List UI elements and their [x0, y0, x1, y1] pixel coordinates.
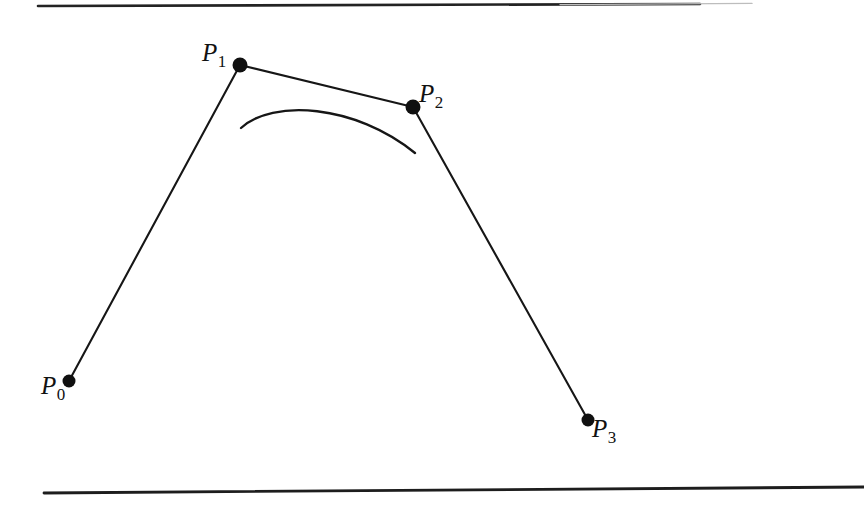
label-p2-subscript: 2 — [434, 93, 443, 112]
control-point-label-p3: P3 — [592, 416, 616, 446]
control-polygon — [69, 65, 588, 420]
control-point-dot-p1[interactable] — [233, 58, 248, 73]
label-p0-base: P — [41, 372, 56, 399]
figure-vector-layer — [0, 0, 864, 506]
bezier-curve-arc — [241, 110, 415, 153]
figure-canvas: P0 P1 P2 P3 — [0, 0, 864, 506]
control-point-label-p0: P0 — [41, 373, 65, 403]
label-p3-base: P — [592, 415, 607, 442]
label-p2-base: P — [419, 80, 434, 107]
label-p1-base: P — [202, 39, 217, 66]
label-p0-subscript: 0 — [56, 385, 65, 404]
label-p1-subscript: 1 — [217, 52, 226, 71]
label-p3-subscript: 3 — [607, 428, 616, 447]
bottom-horizontal-rule — [44, 487, 864, 493]
control-point-label-p1: P1 — [202, 40, 226, 70]
control-point-label-p2: P2 — [419, 81, 443, 111]
